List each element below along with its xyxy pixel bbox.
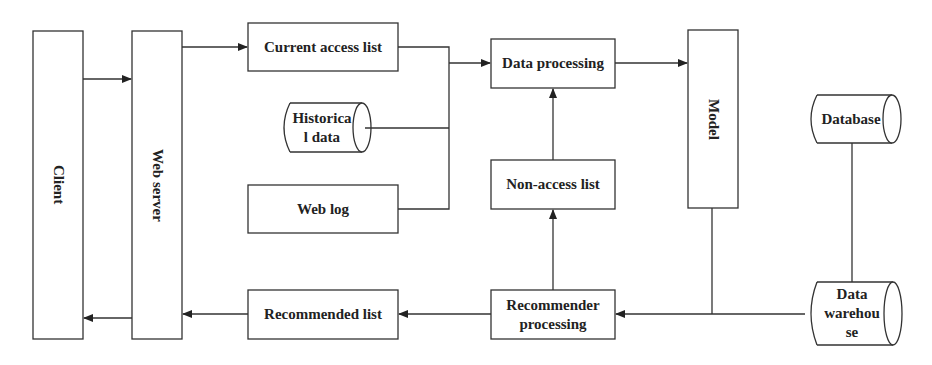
recommender-processing-line1: Recommender xyxy=(506,296,599,315)
data-warehouse-line3: se xyxy=(846,323,859,342)
data-warehouse-line1: Data xyxy=(837,285,868,304)
historical-data-line1: Historica xyxy=(292,109,351,128)
web-server-label: Web server xyxy=(132,31,182,339)
historical-data-label: Historica l data xyxy=(283,103,361,152)
recommended-list-label: Recommended list xyxy=(248,290,398,339)
data-warehouse-label: Data warehou se xyxy=(812,282,892,345)
data-processing-label: Data processing xyxy=(491,39,615,88)
client-label: Client xyxy=(33,31,83,339)
model-label: Model xyxy=(688,30,738,208)
non-access-list-label: Non-access list xyxy=(491,160,615,209)
recommender-processing-label: Recommender processing xyxy=(491,290,615,339)
diagram-canvas: Client Web server Current access list Hi… xyxy=(0,0,932,365)
database-label: Database xyxy=(810,95,892,143)
current-access-list-label: Current access list xyxy=(248,23,398,71)
web-log-label: Web log xyxy=(248,185,398,233)
historical-data-line2: l data xyxy=(304,128,340,147)
recommender-processing-line2: processing xyxy=(519,315,586,334)
data-warehouse-line2: warehou xyxy=(824,304,880,323)
